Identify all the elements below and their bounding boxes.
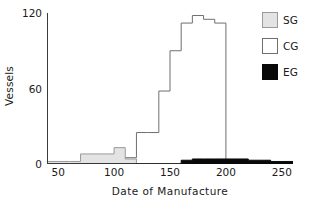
y-tick-label-60: 60: [29, 83, 42, 94]
y-axis-title: Vessels: [3, 56, 15, 116]
x-tick-label-100: 100: [104, 167, 124, 178]
legend-swatch-sg-icon: [262, 12, 278, 28]
x-tick-label-200: 200: [216, 167, 236, 178]
legend-item-eg[interactable]: EG: [262, 64, 298, 80]
x-tick-label-150: 150: [160, 167, 180, 178]
legend-item-sg[interactable]: SG: [262, 12, 298, 28]
legend-swatch-eg-icon: [262, 64, 278, 80]
legend-item-cg[interactable]: CG: [262, 38, 298, 54]
legend-label-eg: EG: [283, 67, 298, 78]
x-tick-label-250: 250: [272, 167, 292, 178]
legend-swatch-cg-icon: [262, 38, 278, 54]
histogram-svg: [47, 13, 293, 164]
x-tick-label-50: 50: [51, 167, 64, 178]
legend-label-cg: CG: [283, 41, 298, 52]
y-tick-label-120: 120: [22, 8, 42, 19]
y-tick-label-0: 0: [35, 159, 42, 170]
legend: SGCGEG: [262, 12, 298, 80]
series-cg: [47, 16, 293, 164]
chart-figure: 060120 Vessels 50100150200250 Date of Ma…: [0, 0, 313, 210]
x-axis-title: Date of Manufacture: [47, 185, 293, 197]
plot-area: [47, 13, 293, 164]
legend-label-sg: SG: [283, 15, 298, 26]
